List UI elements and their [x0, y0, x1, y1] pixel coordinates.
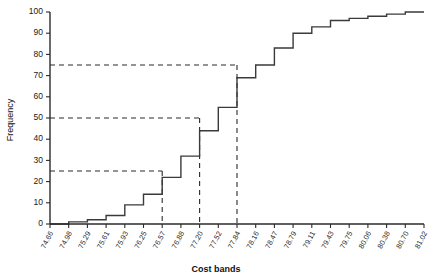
y-axis-title: Frequency: [5, 98, 15, 141]
x-axis-tick-label: 76.25: [132, 230, 149, 250]
y-axis-tick-label: 20: [34, 176, 44, 186]
y-axis-tick-label: 10: [34, 197, 44, 207]
y-axis-tick-label: 100: [29, 6, 43, 16]
x-axis-tick-label: 79.11: [301, 230, 317, 250]
x-axis-tick-label: 80.70: [394, 230, 411, 250]
x-axis-tick-label: 79.75: [338, 230, 355, 250]
y-axis-tick-label: 60: [34, 91, 44, 101]
chart-canvas: 0102030405060708090100 74.6674.9875.2975…: [0, 0, 432, 280]
x-axis-tick-label: 78.47: [263, 230, 280, 250]
x-axis-tick-label: 74.66: [39, 230, 56, 250]
x-axis-tick-label: 76.88: [170, 230, 187, 250]
x-axis-tick-label: 75.61: [95, 230, 112, 250]
x-axis-ticks: 74.6674.9875.2975.6175.9376.2576.5776.88…: [39, 224, 430, 250]
x-axis-tick-label: 77.20: [188, 230, 205, 250]
y-axis-tick-label: 50: [34, 112, 44, 122]
x-axis-tick-label: 77.52: [207, 230, 224, 250]
y-axis-tick-label: 30: [34, 155, 44, 165]
x-axis-tick-label: 80.06: [357, 230, 374, 250]
y-axis-tick-label: 80: [34, 49, 44, 59]
cumulative-frequency-chart: 0102030405060708090100 74.6674.9875.2975…: [0, 0, 432, 280]
x-axis-tick-label: 81.02: [413, 230, 430, 250]
y-axis-tick-label: 40: [34, 133, 44, 143]
x-axis-tick-label: 78.79: [282, 230, 299, 250]
x-axis-tick-label: 74.98: [57, 230, 74, 250]
x-axis-title: Cost bands: [191, 264, 240, 274]
y-axis-tick-label: 70: [34, 70, 44, 80]
x-axis-tick-label: 75.93: [114, 230, 131, 250]
x-axis-tick-label: 76.57: [151, 230, 168, 250]
x-axis-tick-label: 78.16: [244, 230, 261, 250]
x-axis-tick-label: 75.29: [76, 230, 93, 250]
x-axis-tick-label: 80.38: [375, 230, 392, 250]
y-axis-tick-label: 0: [38, 218, 43, 228]
x-axis-tick-label: 79.43: [319, 230, 336, 250]
y-axis-tick-label: 90: [34, 27, 44, 37]
y-axis-ticks: 0102030405060708090100: [29, 6, 50, 228]
x-axis-tick-label: 77.84: [226, 230, 243, 250]
